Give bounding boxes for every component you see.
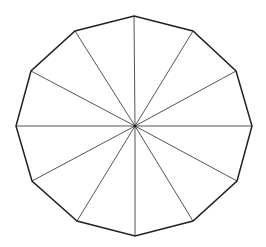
spoke-4 xyxy=(135,126,237,181)
center-point xyxy=(134,125,137,128)
spoke-0 xyxy=(134,16,135,126)
spoke-1 xyxy=(135,31,193,126)
spoke-8 xyxy=(32,126,135,181)
dodecagon-diagram xyxy=(0,0,266,247)
spoke-7 xyxy=(77,126,135,221)
spoke-11 xyxy=(75,31,135,126)
spoke-5 xyxy=(135,126,193,221)
spoke-2 xyxy=(135,71,236,126)
spoke-10 xyxy=(31,71,135,126)
